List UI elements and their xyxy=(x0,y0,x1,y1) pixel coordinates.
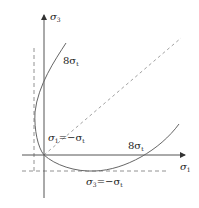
upper-branch-label: 8σt xyxy=(63,56,79,67)
sigma1-axis-label: σ1 xyxy=(180,162,191,173)
left-intercept-label: σ1=−σt xyxy=(48,133,85,144)
bottom-intercept-label: σ3=−σt xyxy=(86,177,123,188)
failure-curve xyxy=(35,43,179,171)
sigma3-axis-label: σ3 xyxy=(50,12,61,23)
right-branch-label: 8σt xyxy=(128,141,144,152)
